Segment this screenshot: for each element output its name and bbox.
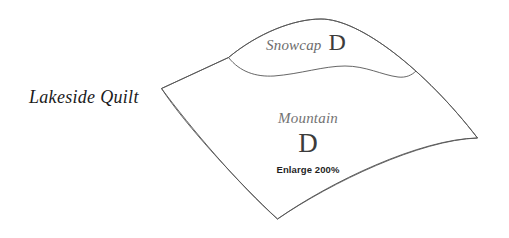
mountain-patch-name: Mountain [266,110,350,127]
enlarge-instruction-note: Enlarge 200% [266,164,350,175]
snowcap-patch-name: Snowcap [266,37,322,54]
quilt-pattern-diagram: Lakeside Quilt Snowcap D Mountain D Enla… [0,0,509,238]
mountain-patch-label-group: Mountain D Enlarge 200% [266,110,350,175]
quilt-outline-svg [0,0,509,238]
quilt-name-caption: Lakeside Quilt [29,88,139,106]
snowcap-patch-label-group: Snowcap D [266,30,346,54]
snowcap-template-piece-letter: D [329,30,346,54]
mountain-template-piece-letter: D [266,130,350,157]
